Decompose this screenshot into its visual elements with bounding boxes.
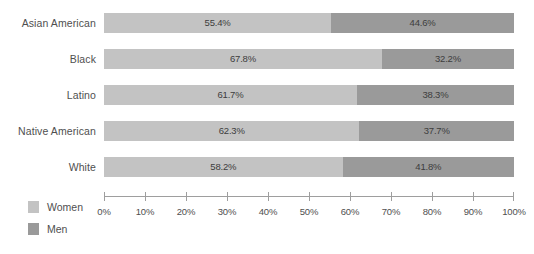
bar-value-label-women: 62.3% <box>104 121 359 141</box>
category-label: Black <box>0 49 96 69</box>
x-axis-tick-label: 20% <box>164 206 208 217</box>
legend-swatch <box>28 201 39 213</box>
bar-track: 61.7%38.3% <box>104 85 514 105</box>
bar-segment-men: 41.8% <box>343 157 514 177</box>
chart-legend: WomenMen <box>28 199 100 243</box>
bar-segment-women: 55.4% <box>104 13 331 33</box>
bar-segment-women: 58.2% <box>104 157 343 177</box>
x-axis-tick <box>350 192 351 201</box>
category-label: Asian American <box>0 13 96 33</box>
x-axis-tick <box>186 192 187 201</box>
x-axis-tick-label: 70% <box>369 206 413 217</box>
bar-segment-women: 67.8% <box>104 49 382 69</box>
bar-value-label-women: 58.2% <box>104 157 343 177</box>
bar-value-label-men: 44.6% <box>331 13 514 33</box>
bar-value-label-men: 38.3% <box>357 85 514 105</box>
x-axis-tick <box>227 192 228 201</box>
x-axis-tick <box>268 192 269 201</box>
bar-segment-women: 61.7% <box>104 85 357 105</box>
bar-value-label-women: 67.8% <box>104 49 382 69</box>
x-axis-tick <box>309 192 310 201</box>
x-axis-tick-label: 50% <box>287 206 331 217</box>
chart-plot-area: Asian American55.4%44.6%Black67.8%32.2%L… <box>0 0 534 190</box>
x-axis-tick-label: 10% <box>123 206 167 217</box>
x-axis-tick <box>513 192 514 201</box>
x-axis-tick <box>104 192 105 201</box>
bar-segment-men: 38.3% <box>357 85 514 105</box>
x-axis: 0%10%20%30%40%50%60%70%80%90%100% <box>104 196 514 206</box>
x-axis-tick-label: 100% <box>492 206 534 217</box>
x-axis-tick <box>473 192 474 201</box>
bar-track: 55.4%44.6% <box>104 13 514 33</box>
x-axis-tick-label: 60% <box>328 206 372 217</box>
bar-value-label-men: 37.7% <box>359 121 514 141</box>
chart-row: Native American62.3%37.7% <box>0 121 534 141</box>
x-axis-tick-label: 40% <box>246 206 290 217</box>
bar-value-label-men: 32.2% <box>382 49 514 69</box>
bar-segment-men: 37.7% <box>359 121 514 141</box>
bar-value-label-women: 55.4% <box>104 13 331 33</box>
x-axis-tick-label: 80% <box>410 206 454 217</box>
chart-row: White58.2%41.8% <box>0 157 534 177</box>
bar-segment-men: 44.6% <box>331 13 514 33</box>
x-axis-tick-label: 90% <box>451 206 495 217</box>
bar-segment-men: 32.2% <box>382 49 514 69</box>
x-axis-tick <box>145 192 146 201</box>
x-axis-tick <box>391 192 392 201</box>
bar-value-label-women: 61.7% <box>104 85 357 105</box>
chart-row: Asian American55.4%44.6% <box>0 13 534 33</box>
legend-label: Women <box>47 199 83 215</box>
x-axis-tick-label: 30% <box>205 206 249 217</box>
bar-track: 62.3%37.7% <box>104 121 514 141</box>
category-label: Latino <box>0 85 96 105</box>
chart-row: Latino61.7%38.3% <box>0 85 534 105</box>
bar-track: 67.8%32.2% <box>104 49 514 69</box>
stacked-bar-chart: Asian American55.4%44.6%Black67.8%32.2%L… <box>0 0 534 254</box>
legend-label: Men <box>47 221 67 237</box>
bar-segment-women: 62.3% <box>104 121 359 141</box>
legend-swatch <box>28 223 39 235</box>
category-label: Native American <box>0 121 96 141</box>
category-label: White <box>0 157 96 177</box>
bar-value-label-men: 41.8% <box>343 157 514 177</box>
bar-track: 58.2%41.8% <box>104 157 514 177</box>
x-axis-tick <box>432 192 433 201</box>
chart-row: Black67.8%32.2% <box>0 49 534 69</box>
